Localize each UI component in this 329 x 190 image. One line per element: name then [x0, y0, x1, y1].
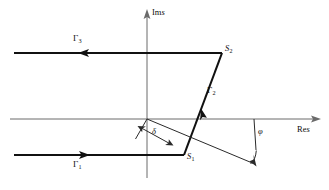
phi-reference-line [254, 119, 256, 150]
delta-arrowhead-start [138, 126, 146, 132]
slant-ray-line [147, 119, 254, 164]
gamma1-label: Γ1 [73, 160, 81, 169]
re-axis-label-italic: s [306, 124, 309, 134]
delta-arrowhead-end [165, 139, 173, 145]
im-axis-label-italic: s [161, 7, 164, 17]
figure-root: Ims Res Γ3 Γ2 Γ1 S2 S1 δ φ [0, 0, 329, 190]
gamma2-arrowhead [200, 109, 207, 120]
gamma2-label-subscript: 2 [213, 89, 216, 96]
im-axis-label: Ims [152, 8, 165, 17]
gamma3-label-symbol: Γ [73, 33, 78, 43]
gamma1-label-subscript: 1 [79, 163, 82, 170]
contour-diagram-canvas [0, 0, 329, 190]
re-axis-label: Res [297, 125, 310, 134]
point-s2-label-symbol: S [225, 43, 229, 53]
contour-group [14, 49, 222, 159]
delta-label: δ [152, 127, 156, 136]
point-s2-label-subscript: 2 [230, 48, 233, 54]
gamma2-label: Γ2 [207, 86, 215, 95]
gamma1-label-symbol: Γ [73, 159, 78, 169]
gamma3-label-subscript: 3 [79, 37, 82, 44]
point-s1-label-subscript: 1 [192, 156, 195, 162]
point-s2-label: S2 [225, 44, 232, 53]
gamma2-label-symbol: Γ [207, 85, 212, 95]
gamma3-label: Γ3 [73, 34, 81, 43]
phi-label: φ [258, 127, 263, 136]
gamma2-segment [184, 53, 222, 155]
axes-group [10, 9, 321, 178]
point-s1-label-symbol: S [187, 151, 191, 161]
point-s1-label: S1 [187, 152, 194, 161]
